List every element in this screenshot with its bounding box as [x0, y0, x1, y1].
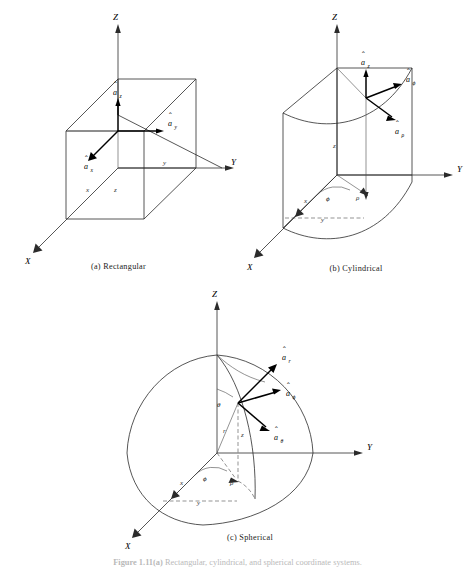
- svg-text:r: r: [289, 358, 292, 364]
- coord-label-x: x: [85, 186, 90, 194]
- axis-label-y: Y: [457, 164, 463, 174]
- angle-label-phi: ϕ: [203, 475, 207, 483]
- unit-vector-label-a-hat-z: ˆ a z: [361, 51, 371, 69]
- svg-text:a: a: [395, 127, 399, 136]
- unit-vector-label-a-hat-rho: ˆ a ρ: [395, 120, 405, 138]
- svg-text:ρ: ρ: [401, 132, 405, 138]
- svg-text:a: a: [84, 162, 88, 171]
- coord-label-r: r: [223, 427, 226, 435]
- svg-text:a: a: [274, 433, 278, 442]
- axis-label-z: Z: [113, 12, 119, 22]
- svg-text:a: a: [361, 58, 365, 67]
- svg-text:ϕ: ϕ: [413, 80, 416, 86]
- caption-spherical: (c) Spherical: [105, 533, 395, 542]
- coord-label-rho: ρ: [229, 479, 234, 487]
- coord-label-z: z: [240, 431, 244, 439]
- figure-caption-label: Figure 1.11(a): [113, 558, 163, 567]
- unit-vector-label-a-hat-r: ˆ a r: [282, 346, 292, 364]
- coord-label-rho: ρ: [355, 194, 360, 202]
- coord-label-y: y: [320, 216, 325, 224]
- svg-text:a: a: [406, 75, 410, 84]
- axis-label-y: Y: [367, 442, 373, 452]
- figure-caption: Figure 1.11(a) Rectangular, cylindrical,…: [0, 558, 475, 567]
- coord-label-z: z: [332, 142, 336, 150]
- coord-label-y: y: [162, 159, 167, 167]
- svg-text:θ: θ: [281, 438, 284, 444]
- diagram-cylindrical: Z Y X x y z ρ ϕ ˆ a z ˆ a ϕ ˆ a ρ: [237, 0, 475, 285]
- unit-vector-label-a-hat-y: ˆ a y: [168, 112, 178, 130]
- svg-text:y: y: [174, 124, 178, 130]
- coord-label-z: z: [113, 186, 117, 194]
- svg-text:a: a: [168, 119, 172, 128]
- svg-text:ϕ: ϕ: [293, 394, 296, 400]
- caption-rectangular: (a) Rectangular: [0, 262, 237, 271]
- figure-caption-text: Rectangular, cylindrical, and spherical …: [165, 558, 362, 567]
- diagram-spherical: Z Y X x y z r ρ θ ϕ ˆ a r ˆ a ϕ ˆ: [105, 285, 395, 550]
- svg-text:a: a: [113, 88, 117, 97]
- caption-cylindrical: (b) Cylindrical: [237, 264, 475, 273]
- coord-label-x: x: [179, 479, 184, 487]
- axis-label-x: X: [124, 541, 131, 550]
- angle-label-phi: ϕ: [326, 195, 330, 203]
- svg-text:a: a: [282, 353, 286, 362]
- coord-label-y: y: [196, 499, 201, 507]
- angle-label-theta: θ: [217, 401, 221, 409]
- axis-label-z: Z: [212, 289, 218, 299]
- svg-text:a: a: [286, 389, 290, 398]
- figure-page: Z Y X x y z ˆ a z ˆ a y ˆ a x (: [0, 0, 475, 567]
- axis-label-z: Z: [332, 12, 338, 22]
- unit-vector-label-a-hat-theta: ˆ a θ: [274, 426, 284, 444]
- svg-text:z: z: [119, 93, 123, 99]
- svg-text:x: x: [90, 167, 94, 173]
- unit-vector-label-a-hat-phi: ˆ a ϕ: [286, 382, 296, 400]
- diagram-rectangular: Z Y X x y z ˆ a z ˆ a y ˆ a x (: [0, 0, 237, 285]
